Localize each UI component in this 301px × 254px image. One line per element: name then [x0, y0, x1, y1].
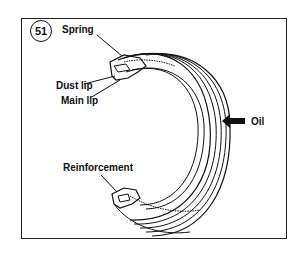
label-spring: Spring — [62, 25, 94, 35]
label-main-lip: Main lip — [61, 96, 98, 106]
label-dust-lip: Dust lip — [56, 81, 93, 91]
label-reinforcement: Reinforcement — [63, 163, 133, 173]
oil-seal-illustration — [0, 0, 301, 254]
label-oil: Oil — [251, 117, 264, 127]
